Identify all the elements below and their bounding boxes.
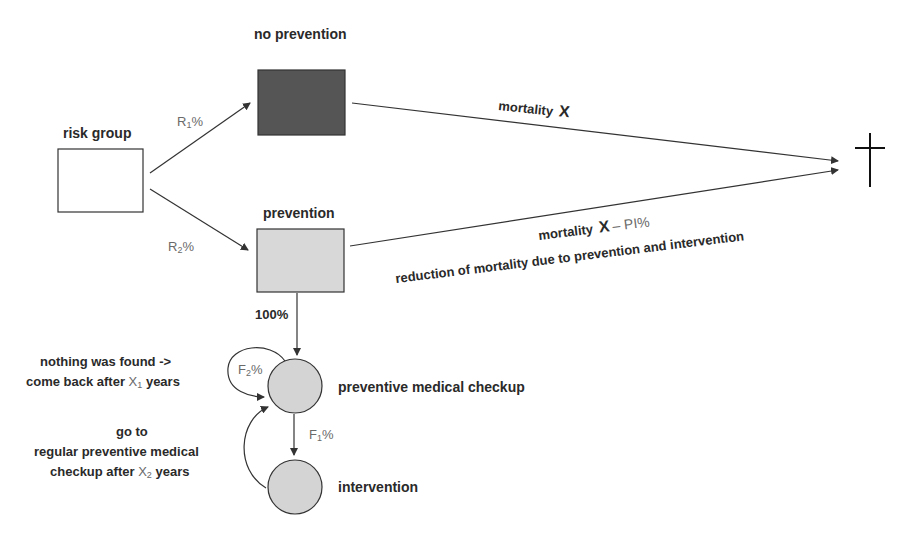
go-to-line1: go to bbox=[116, 424, 148, 439]
risk-group-box bbox=[58, 149, 143, 212]
no-prevention-label: no prevention bbox=[254, 26, 347, 42]
svg-text:XmortalityX– PI%: XmortalityX– PI% bbox=[537, 212, 650, 243]
f1-label: F1% bbox=[309, 427, 334, 443]
checkup-circle bbox=[268, 359, 322, 413]
nothing-found-line2: come back after X1 years bbox=[26, 374, 180, 390]
svg-text:mortalityX: mortalityX bbox=[498, 96, 571, 120]
go-to-line3: checkup after X2 years bbox=[50, 464, 189, 480]
arrow-mortality-pi bbox=[350, 170, 838, 246]
mortality-x-label: mortalityX bbox=[498, 96, 571, 120]
nothing-found-line1: nothing was found -> bbox=[40, 354, 171, 369]
r2-label: R2% bbox=[168, 239, 194, 255]
diagram-canvas: risk group no prevention prevention R1% … bbox=[0, 0, 908, 540]
checkup-label: preventive medical checkup bbox=[338, 379, 525, 395]
intervention-circle bbox=[268, 460, 322, 514]
prevention-box bbox=[257, 229, 344, 292]
arrow-r2 bbox=[150, 189, 248, 250]
r1-label: R1% bbox=[177, 114, 203, 130]
arrow-return-checkup bbox=[244, 407, 268, 488]
prevention-label: prevention bbox=[263, 205, 335, 221]
no-prevention-box bbox=[258, 70, 345, 135]
death-cross-icon bbox=[855, 133, 885, 187]
risk-group-label: risk group bbox=[63, 125, 131, 141]
go-to-line2: regular preventive medical bbox=[34, 444, 199, 459]
intervention-label: intervention bbox=[338, 479, 418, 495]
f2-label: F2% bbox=[238, 362, 263, 378]
hundred-label: 100% bbox=[255, 307, 289, 322]
arrow-mortality-x bbox=[352, 103, 838, 161]
mortality-pi-label: XmortalityX– PI% bbox=[537, 212, 650, 243]
